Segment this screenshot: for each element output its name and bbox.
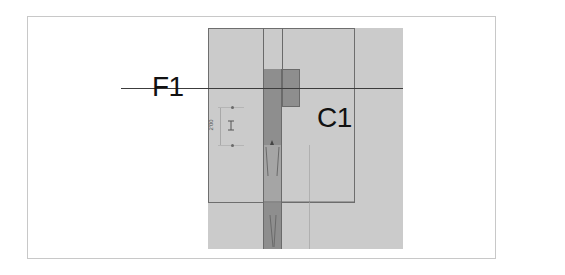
- i-beam-icon: [0, 0, 565, 275]
